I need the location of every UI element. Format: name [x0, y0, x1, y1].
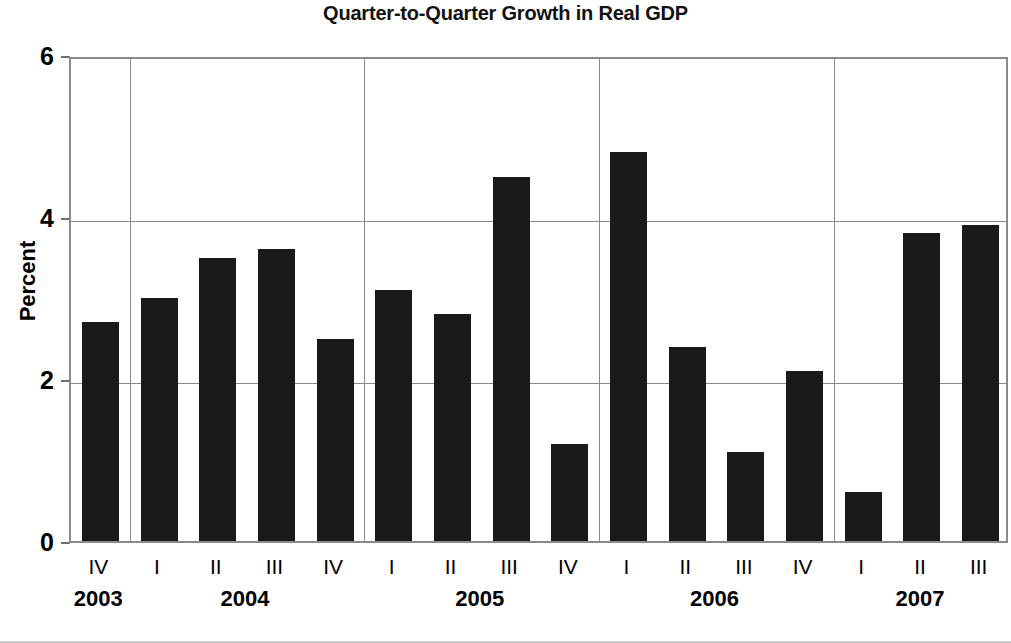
bar	[903, 233, 940, 541]
x-quarter-label: III	[714, 556, 774, 577]
bar	[962, 225, 999, 541]
x-quarter-label: II	[655, 556, 715, 577]
x-year-label: 2004	[200, 588, 290, 610]
x-quarter-label: III	[949, 556, 1009, 577]
chart-title: Quarter-to-Quarter Growth in Real GDP	[0, 2, 1011, 25]
x-quarter-label: I	[127, 556, 187, 577]
y-tick-label-2: 2	[8, 368, 54, 393]
bar	[551, 444, 588, 541]
x-quarter-label: III	[479, 556, 539, 577]
bar	[786, 371, 823, 541]
y-tick-label-6: 6	[8, 44, 54, 69]
y-tick-label-4: 4	[8, 206, 54, 231]
bar	[141, 298, 178, 541]
bar	[317, 339, 354, 542]
plot-area	[69, 57, 1008, 543]
bar	[493, 177, 530, 542]
gridline-4	[71, 221, 1006, 222]
bar	[82, 322, 119, 541]
x-quarter-label: IV	[68, 556, 128, 577]
x-quarter-label: I	[597, 556, 657, 577]
x-quarter-label: IV	[773, 556, 833, 577]
bar	[375, 290, 412, 541]
bar	[199, 258, 236, 542]
x-year-label: 2006	[670, 588, 760, 610]
x-quarter-label: III	[244, 556, 304, 577]
x-quarter-label: II	[420, 556, 480, 577]
year-separator-2004	[130, 59, 131, 541]
x-year-label: 2003	[53, 588, 143, 610]
x-quarter-label: I	[362, 556, 422, 577]
x-year-label: 2005	[435, 588, 525, 610]
gdp-growth-bar-chart: Quarter-to-Quarter Growth in Real GDP Pe…	[0, 0, 1011, 643]
x-quarter-label: I	[831, 556, 891, 577]
bar	[845, 492, 882, 541]
bar	[669, 347, 706, 541]
bar	[434, 314, 471, 541]
bar	[258, 249, 295, 541]
x-quarter-label: II	[186, 556, 246, 577]
bar	[610, 152, 647, 541]
y-tick-label-0: 0	[8, 530, 54, 555]
year-separator-2006	[599, 59, 600, 541]
year-separator-2005	[364, 59, 365, 541]
x-quarter-label: II	[890, 556, 950, 577]
x-quarter-label: IV	[538, 556, 598, 577]
year-separator-2007	[834, 59, 835, 541]
x-year-label: 2007	[875, 588, 965, 610]
bar	[727, 452, 764, 541]
x-quarter-label: IV	[303, 556, 363, 577]
